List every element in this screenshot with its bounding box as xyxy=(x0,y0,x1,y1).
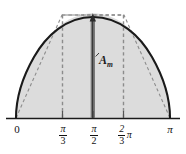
fraction-suffix-pi: π xyxy=(125,130,132,140)
fraction-denominator: 2 xyxy=(90,136,97,146)
amplitude-label-base: A xyxy=(99,53,107,67)
fraction-numerator: π xyxy=(90,124,97,134)
tick-label-pi-over-2: π 2 xyxy=(85,124,103,146)
amplitude-label-subscript: m xyxy=(107,60,113,69)
fraction-two-thirds: 2 3 xyxy=(118,124,125,146)
fraction-denominator: 3 xyxy=(59,136,66,146)
tick-label-0: 0 xyxy=(11,124,23,135)
tick-label-two-pi-over-3: 2 3 π xyxy=(112,124,138,146)
figure-root: Am 0 π 3 π 2 2 3 π π xyxy=(0,0,186,154)
fraction-denominator: 3 xyxy=(118,136,125,146)
tick-label-pi-over-3: π 3 xyxy=(54,124,72,146)
fraction-numerator: 2 xyxy=(118,124,125,134)
amplitude-label: Am xyxy=(99,53,113,69)
tick-label-0-text: 0 xyxy=(14,123,20,135)
fraction-pi-over-2: π 2 xyxy=(90,124,97,146)
fraction-numerator: π xyxy=(59,124,66,134)
tick-label-pi: π xyxy=(164,124,176,135)
tick-label-pi-text: π xyxy=(167,123,173,135)
fraction-pi-over-3: π 3 xyxy=(59,124,66,146)
